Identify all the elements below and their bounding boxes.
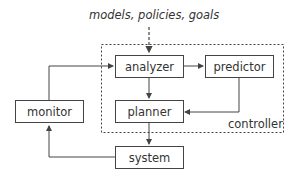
controller-label: controller <box>228 117 283 131</box>
predictor-to-planner-arrow <box>185 77 239 112</box>
system-box: system <box>115 146 184 169</box>
predictor-box: predictor <box>205 55 274 78</box>
monitor-box: monitor <box>15 100 84 123</box>
monitor-to-analyzer-arrow <box>49 66 113 100</box>
planner-box: planner <box>115 100 184 123</box>
inputs-label: models, policies, goals <box>89 8 219 22</box>
analyzer-box: analyzer <box>115 55 184 78</box>
control-loop-diagram: models, policies, goals analyzer predict… <box>0 0 297 182</box>
system-to-monitor-arrow <box>49 126 115 157</box>
